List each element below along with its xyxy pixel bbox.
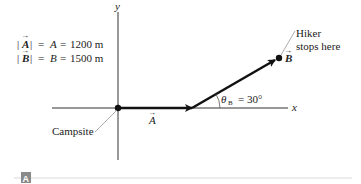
hiker-stop-point xyxy=(276,55,282,61)
svg-text:θ: θ xyxy=(221,93,227,105)
panel-label: A xyxy=(23,174,30,184)
vector-A-label: A → xyxy=(148,108,156,126)
magnitude-A: | A → | = A = 1200 m xyxy=(17,31,104,50)
svg-text:=: = xyxy=(38,52,44,64)
campsite-label: Campsite xyxy=(52,125,94,137)
svg-text:1500 m: 1500 m xyxy=(70,52,104,64)
vector-B xyxy=(192,60,275,108)
angle-arc xyxy=(216,94,220,108)
campsite-leader xyxy=(95,110,117,132)
svg-text:1200 m: 1200 m xyxy=(70,38,104,50)
svg-text:A: A xyxy=(49,38,57,50)
hiker-label-line1: Hiker xyxy=(296,27,321,39)
svg-text:→: → xyxy=(21,31,29,40)
hiker-label-line2: stops here xyxy=(296,40,340,52)
campsite-point xyxy=(115,105,121,111)
svg-text:|: | xyxy=(17,38,19,50)
vector-diagram: y x | A → | = A = 1200 m | B → | = B = 1… xyxy=(0,0,361,183)
y-axis-label: y xyxy=(114,0,120,12)
svg-text:=: = xyxy=(60,52,66,64)
vector-B-label: B → xyxy=(284,46,292,64)
svg-text:B: B xyxy=(228,99,233,107)
svg-text:|: | xyxy=(30,38,32,50)
svg-text:=: = xyxy=(60,38,66,50)
svg-text:→: → xyxy=(21,46,29,55)
x-axis-label: x xyxy=(291,101,297,113)
svg-text:|: | xyxy=(17,52,19,64)
svg-text:B: B xyxy=(50,52,57,64)
svg-text:= 30°: = 30° xyxy=(238,93,262,105)
angle-label: θ B = 30° xyxy=(221,93,262,107)
svg-text:→: → xyxy=(148,108,156,117)
svg-text:|: | xyxy=(30,52,32,64)
svg-text:=: = xyxy=(38,38,44,50)
